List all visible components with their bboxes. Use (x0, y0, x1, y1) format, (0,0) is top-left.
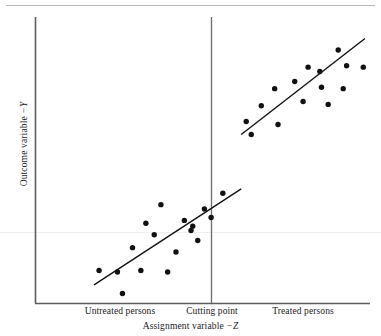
x-axis-title-text: Assignment variable (143, 321, 227, 331)
data-point-treated (305, 64, 310, 69)
data-point-control (165, 269, 170, 274)
data-point-treated (275, 122, 280, 127)
data-point-control (152, 232, 157, 237)
data-point-control (208, 215, 213, 220)
data-point-treated (300, 99, 305, 104)
data-point-treated (325, 102, 330, 107)
data-point-treated (361, 64, 366, 69)
data-point-control (158, 202, 163, 207)
regression-discontinuity-figure: Outcome variable −Y Assignment variable … (0, 0, 381, 336)
data-point-control (138, 268, 143, 273)
region-label-treated: Treated persons (250, 306, 356, 316)
data-point-control (220, 190, 225, 195)
data-point-treated (341, 86, 346, 91)
data-point-control (143, 221, 148, 226)
data-point-control (202, 206, 207, 211)
region-label-cutting-point: Cutting point (176, 306, 248, 316)
data-point-control (115, 269, 120, 274)
x-axis-title: Assignment variable −Z (0, 321, 381, 331)
data-point-control (130, 245, 135, 250)
data-point-treated (292, 79, 297, 84)
y-axis-variable: −Y (19, 102, 29, 114)
data-point-treated (344, 63, 349, 68)
data-point-control (195, 238, 200, 243)
region-label-untreated: Untreated persons (62, 306, 178, 316)
data-point-control (173, 249, 178, 254)
data-point-treated (272, 86, 277, 91)
data-point-treated (317, 69, 322, 74)
fit-line-treated (241, 38, 365, 134)
plot-canvas (0, 0, 381, 336)
data-point-treated (336, 47, 341, 52)
data-point-treated (259, 103, 264, 108)
data-point-control (182, 218, 187, 223)
x-axis-variable: −Z (226, 321, 238, 331)
data-point-treated (249, 132, 254, 137)
data-point-treated (244, 119, 249, 124)
data-point-control (120, 291, 125, 296)
scatter-points-group (96, 47, 366, 296)
data-point-control (190, 223, 195, 228)
y-axis-title: Outcome variable −Y (19, 74, 29, 214)
data-point-treated (319, 84, 324, 89)
data-point-control (96, 268, 101, 273)
y-axis-title-text: Outcome variable (19, 114, 29, 187)
